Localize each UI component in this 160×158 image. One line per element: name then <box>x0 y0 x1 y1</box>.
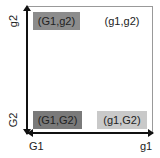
y-axis-top-label: g2 <box>7 15 19 27</box>
cell-bottom-left: (G1,G2) <box>33 111 82 129</box>
x-axis-right-label: g1 <box>140 140 152 152</box>
arrow-right-icon <box>148 129 154 137</box>
x-axis-line <box>27 132 153 134</box>
cell-top-right: (g1,g2) <box>97 12 147 30</box>
x-axis-left-label: G1 <box>29 140 44 152</box>
y-axis-line <box>26 8 28 134</box>
arrow-up-icon <box>23 5 31 11</box>
cell-bottom-right: (g1,G2) <box>97 111 147 129</box>
y-axis-bottom-label: G2 <box>7 113 19 128</box>
arrow-left-icon <box>27 129 33 137</box>
cell-top-left: (G1,g2) <box>33 12 80 30</box>
